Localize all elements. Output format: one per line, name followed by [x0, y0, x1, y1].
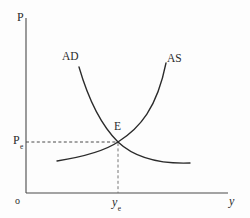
aggregate-demand-label: AD: [62, 51, 79, 63]
equilibrium-price-label: Pe: [13, 134, 23, 149]
aggregate-demand-curve: [79, 67, 190, 163]
aggregate-supply-label: AS: [167, 53, 182, 65]
y-axis-label: P: [17, 11, 24, 23]
diagram-canvas: [0, 0, 250, 218]
equilibrium-quantity-label: ye: [112, 196, 121, 211]
equilibrium-point-label: E: [114, 121, 121, 133]
equilibrium-price-label-subscript: e: [20, 142, 23, 151]
equilibrium-quantity-label-main: y: [112, 195, 117, 209]
equilibrium-price-label-main: P: [13, 133, 20, 147]
aggregate-supply-curve: [57, 63, 166, 161]
x-axis-label: y: [229, 195, 234, 207]
origin-label: o: [15, 196, 20, 206]
economics-diagram: P y o AD AS E Pe ye: [0, 0, 250, 218]
equilibrium-quantity-label-subscript: e: [118, 204, 121, 213]
